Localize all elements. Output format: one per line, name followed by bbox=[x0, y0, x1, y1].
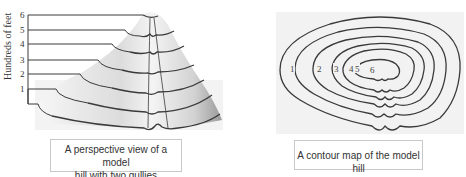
level-label-3: 3 bbox=[20, 55, 25, 65]
level-label-1: 1 bbox=[20, 84, 25, 94]
map-label-6: 6 bbox=[370, 65, 375, 75]
perspective-caption-line-2: hill with two gullies bbox=[51, 169, 181, 177]
perspective-caption-line-1: A perspective view of a model bbox=[51, 143, 181, 169]
perspective-view: 6 5 4 3 2 1 bbox=[20, 10, 223, 130]
map-label-3: 3 bbox=[334, 64, 339, 74]
contour-map-caption: A contour map of the model hill bbox=[294, 140, 423, 170]
perspective-caption: A perspective view of a model hill with … bbox=[50, 139, 182, 172]
contour-map-caption-text: A contour map of the model hill bbox=[295, 149, 422, 175]
contour-map: 1 2 3 4 5 6 bbox=[276, 12, 464, 134]
leader-5 bbox=[28, 30, 140, 36]
level-label-2: 2 bbox=[20, 69, 25, 79]
level-labels: 6 5 4 3 2 1 bbox=[20, 10, 25, 94]
map-label-4: 4 bbox=[349, 64, 354, 74]
axis-title: Hundreds of feet bbox=[2, 28, 14, 80]
map-label-2: 2 bbox=[317, 64, 322, 74]
map-label-5: 5 bbox=[355, 64, 360, 74]
level-label-6: 6 bbox=[20, 10, 25, 20]
map-label-1: 1 bbox=[290, 64, 295, 74]
level-label-4: 4 bbox=[20, 39, 25, 49]
level-label-5: 5 bbox=[20, 25, 25, 35]
